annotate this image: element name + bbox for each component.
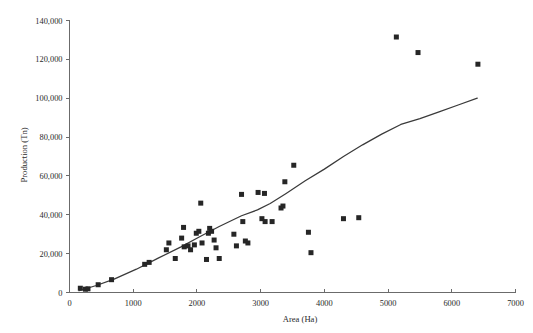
data-point-marker	[196, 229, 201, 234]
x-tick-label: 5000	[380, 299, 397, 308]
data-point-marker	[200, 240, 205, 245]
data-point-marker	[212, 238, 217, 243]
y-tick-label: 100,000	[35, 94, 62, 103]
plot-area: 020,00040,00060,00080,000100,000120,0001…	[0, 0, 533, 333]
x-tick-label: 1000	[125, 299, 142, 308]
y-tick-label: 20,000	[39, 250, 62, 259]
data-point-marker	[341, 216, 346, 221]
data-point-marker	[256, 190, 261, 195]
y-tick-label: 40,000	[39, 211, 62, 220]
data-point-marker	[198, 201, 203, 206]
data-point-marker	[142, 262, 147, 267]
axis-ticks	[66, 21, 516, 293]
data-point-marker	[231, 232, 236, 237]
data-point-marker	[78, 286, 83, 291]
data-point-marker	[147, 260, 152, 265]
trend-line	[79, 98, 477, 291]
data-point-marker	[308, 250, 313, 255]
data-point-marker	[306, 230, 311, 235]
x-tick-label: 2000	[189, 299, 206, 308]
data-point-marker	[234, 243, 239, 248]
y-tick-label: 60,000	[39, 172, 62, 181]
data-point-marker	[209, 229, 214, 234]
x-tick-label: 4000	[316, 299, 333, 308]
data-point-marker	[280, 204, 285, 209]
data-point-marker	[179, 236, 184, 241]
data-point-marker	[263, 219, 268, 224]
data-point-marker	[416, 50, 421, 55]
x-tick-label: 3000	[252, 299, 269, 308]
trend-line-path	[79, 98, 477, 291]
x-axis-title: Area (Ha)	[283, 314, 318, 324]
y-tick-label: 140,000	[35, 17, 62, 26]
data-point-marker	[240, 219, 245, 224]
data-point-marker	[291, 163, 296, 168]
data-point-marker	[85, 286, 90, 291]
data-point-marker	[262, 191, 267, 196]
scatter-chart: 020,00040,00060,00080,000100,000120,0001…	[0, 0, 533, 333]
data-point-marker	[109, 277, 114, 282]
data-point-marker	[96, 282, 101, 287]
data-point-marker	[245, 240, 250, 245]
data-point-marker	[475, 62, 480, 67]
data-points	[78, 35, 481, 292]
x-tick-label: 7000	[507, 299, 524, 308]
data-point-marker	[239, 192, 244, 197]
x-tick-label: 0	[67, 299, 71, 308]
data-point-marker	[173, 256, 178, 261]
data-point-marker	[166, 240, 171, 245]
data-point-marker	[282, 179, 287, 184]
data-point-marker	[356, 215, 361, 220]
data-point-marker	[394, 35, 399, 40]
data-point-marker	[181, 225, 186, 230]
y-axis-title: Production (Tn)	[19, 127, 29, 182]
y-tick-label: 0	[58, 289, 62, 298]
data-point-marker	[270, 219, 275, 224]
axes	[70, 21, 516, 293]
data-point-marker	[192, 242, 197, 247]
axis-tick-labels: 020,00040,00060,00080,000100,000120,0001…	[35, 17, 524, 308]
data-point-marker	[217, 256, 222, 261]
data-point-marker	[164, 247, 169, 252]
data-point-marker	[188, 247, 193, 252]
data-point-marker	[204, 257, 209, 262]
data-point-marker	[214, 245, 219, 250]
y-tick-label: 80,000	[39, 133, 62, 142]
x-tick-label: 6000	[443, 299, 460, 308]
y-tick-label: 120,000	[35, 55, 62, 64]
